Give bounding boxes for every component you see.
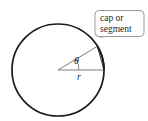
callout-label-line1: cap or: [100, 13, 124, 23]
callout-label-line2: segment: [100, 24, 132, 34]
circle-segment-diagram: cap or segment θ r: [0, 0, 148, 121]
radius-label-r: r: [77, 72, 81, 82]
angle-label-theta: θ: [74, 55, 79, 66]
figure-container: cap or segment θ r: [0, 0, 148, 121]
